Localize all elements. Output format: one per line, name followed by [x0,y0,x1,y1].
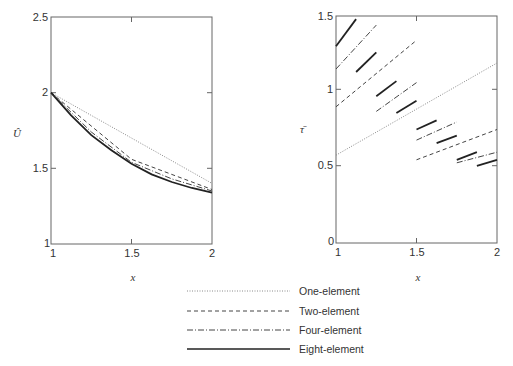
left-ytick-1.5: 1.5 [33,162,48,174]
legend-label: Two-element [299,305,359,317]
figure: 2.5 2 1.5 1 1 1.5 2 Û x 1.5 1 0.5 [0,0,513,366]
right-ytick-1: 1 [327,83,333,95]
right-xtick-1: 1 [335,246,341,258]
legend-label: Four-element [299,324,362,336]
left-chart: 2.5 2 1.5 1 1 1.5 2 Û x [13,11,215,283]
right-ylabel: τ̄ [300,123,307,135]
legend-item-eight-element: Eight-element [187,343,364,355]
right-ytick-0: 0 [328,235,334,247]
left-ylabel: Û [13,127,22,139]
left-xlabel: x [130,271,136,283]
right-xtick-2: 2 [494,246,500,258]
right-chart: 1.5 1 0.5 0 1 1.5 2 τ̄ x [300,10,500,283]
left-plot-frame [51,17,212,244]
left-series-four-element [51,93,212,191]
left-ticks [51,17,212,244]
legend-item-four-element: Four-element [187,324,362,336]
left-xtick-1.5: 1.5 [124,247,139,259]
left-series-one-element [51,93,212,184]
legend-item-one-element: One-element [187,285,360,297]
right-ytick-0.5: 0.5 [318,159,333,171]
legend-label: Eight-element [299,343,364,355]
legend: One-element Two-element Four-element Eig… [187,285,364,355]
right-series-one-element [336,63,497,155]
right-xtick-1.5: 1.5 [409,246,424,258]
right-ytick-1.5: 1.5 [318,10,333,22]
left-ytick-2: 2 [42,86,48,98]
legend-item-two-element: Two-element [187,305,359,317]
legend-label: One-element [299,285,360,297]
left-xtick-2: 2 [209,247,215,259]
right-xlabel: x [415,271,421,283]
left-series-two-element [51,93,212,190]
left-series-eight-element [51,93,212,193]
right-series-four-element [336,25,497,163]
left-ytick-2.5: 2.5 [33,11,48,23]
left-xtick-1: 1 [50,247,56,259]
right-series-eight-element [336,19,497,166]
